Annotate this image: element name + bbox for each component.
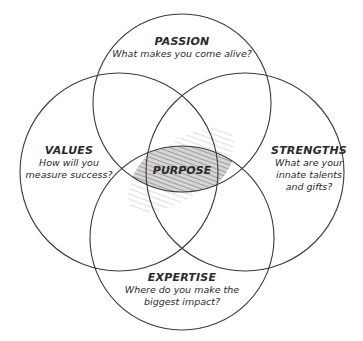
passion-question: What makes you come alive? [102,48,262,60]
values-title: VALUES [24,144,114,157]
expertise-label: EXPERTISE Where do you make the biggest … [117,271,247,308]
strengths-title: STRENGTHS [264,144,354,157]
purpose-label: PURPOSE [142,164,222,177]
strengths-question-line-3: and gifts? [264,181,354,193]
strengths-question-line-2: innate talents [264,169,354,181]
expertise-question-line-1: Where do you make the [117,284,247,296]
strengths-question-line-1: What are your [264,157,354,169]
values-question-line-1: How will you [24,157,114,169]
expertise-question-line-2: biggest impact? [117,296,247,308]
expertise-title: EXPERTISE [117,271,247,284]
passion-title: PASSION [102,35,262,48]
values-question-line-2: measure success? [24,169,114,181]
strengths-label: STRENGTHS What are your innate talents a… [264,144,354,193]
venn-diagram: PASSION What makes you come alive? VALUE… [0,0,363,341]
values-label: VALUES How will you measure success? [24,144,114,181]
passion-label: PASSION What makes you come alive? [102,35,262,60]
